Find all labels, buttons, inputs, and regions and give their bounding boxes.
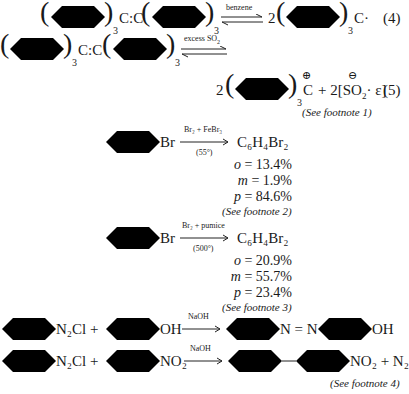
arrow-label-bottom: (500°) xyxy=(193,245,214,253)
substituent: Br xyxy=(160,135,175,150)
reaction-arrow-icon xyxy=(182,325,222,333)
footnote-reference: (See footnote 3) xyxy=(222,302,292,313)
benzene-ring-icon xyxy=(228,350,282,372)
nitro-group: NO₂ xyxy=(160,354,187,369)
biphenyl-bond xyxy=(282,360,296,364)
benzene-ring-icon xyxy=(296,350,350,372)
paren-open: ( xyxy=(102,30,111,58)
benzene-ring-icon xyxy=(10,38,64,60)
coefficient: 2 xyxy=(268,11,276,26)
isomer-yields: o = 20.9% m = 55.7% p = 23.4% xyxy=(228,253,292,301)
footnote-reference: (See footnote 4) xyxy=(330,378,400,389)
product-formula: C₆H₄Br₂ xyxy=(237,135,289,150)
arrow-label: excess SO2 xyxy=(184,35,220,45)
arrow-label-bottom: (55°) xyxy=(196,149,213,157)
paren-close: ) xyxy=(166,30,175,58)
positive-charge-icon: ⊕ xyxy=(302,69,311,82)
hydroxyl-group: OH xyxy=(372,322,394,337)
benzene-ring-icon xyxy=(106,131,160,153)
product-substituents: NO₂ + N₂ xyxy=(350,354,409,369)
arrow-label: NaOH xyxy=(190,345,211,353)
equation-number: (4) xyxy=(383,11,401,26)
diazonium-group: N₂Cl + xyxy=(56,322,98,337)
equilibrium-arrow-icon xyxy=(180,46,228,58)
product-formula: C₆H₄Br₂ xyxy=(237,231,289,246)
central-bond: C:C xyxy=(78,43,102,58)
arrow-label-top: Br₂ + FeBr₃ xyxy=(184,126,222,134)
benzene-ring-icon xyxy=(226,318,280,340)
benzene-ring-icon xyxy=(106,318,160,340)
benzene-ring-icon xyxy=(51,6,105,28)
paren-open: ( xyxy=(276,0,285,26)
benzene-ring-icon xyxy=(235,78,289,100)
diazonium-group: N₂Cl + xyxy=(56,354,98,369)
trityl-radical: C· xyxy=(354,11,369,26)
benzene-ring-icon xyxy=(152,6,206,28)
paren-close: ) xyxy=(205,0,214,26)
paren-close: ) xyxy=(339,0,348,26)
subscript: 3 xyxy=(348,25,353,36)
paren-close: ) xyxy=(104,0,113,26)
benzene-ring-icon xyxy=(113,38,167,60)
benzene-ring-icon xyxy=(318,318,372,340)
equilibrium-arrow-icon xyxy=(220,14,264,26)
reaction-arrow-icon xyxy=(180,138,230,146)
subscript: 3 xyxy=(113,25,118,36)
isomer-yields: o = 13.4% m = 1.9% p = 84.6% xyxy=(228,157,292,205)
yield-row: m = 1.9% xyxy=(228,173,292,189)
subscript: 3 xyxy=(72,57,77,68)
arrow-label: NaOH xyxy=(188,313,209,321)
azo-linkage: N = N xyxy=(280,322,318,337)
reaction-arrow-icon xyxy=(184,357,224,365)
substituent: Br xyxy=(160,231,175,246)
negative-charge-icon: ⊖ xyxy=(348,69,357,82)
yield-row: m = 55.7% xyxy=(228,269,292,285)
so2-complex: + 2[SO2· ε] xyxy=(318,83,386,101)
arrow-label-top: Br₂ + pumice xyxy=(182,222,225,230)
paren-open: ( xyxy=(0,30,9,58)
footnote-reference: (See footnote 1) xyxy=(302,107,372,118)
hydroxyl-group: OH xyxy=(160,322,182,337)
equation-number: (5) xyxy=(383,83,401,98)
benzene-ring-icon xyxy=(106,350,160,372)
footnote-reference: (See footnote 2) xyxy=(222,206,292,217)
paren-open: ( xyxy=(225,70,234,98)
benzene-ring-icon xyxy=(2,350,56,372)
paren-open: ( xyxy=(40,0,49,26)
yield-row: p = 84.6% xyxy=(228,189,292,205)
benzene-ring-icon xyxy=(2,318,56,340)
paren-close: ) xyxy=(288,70,297,98)
benzene-ring-icon xyxy=(106,227,160,249)
yield-row: o = 13.4% xyxy=(228,157,292,173)
subscript: 3 xyxy=(175,57,180,68)
paren-open: ( xyxy=(141,0,150,26)
paren-close: ) xyxy=(63,30,72,58)
reaction-arrow-icon xyxy=(180,234,230,242)
benzene-ring-icon xyxy=(286,6,340,28)
yield-row: o = 20.9% xyxy=(228,253,292,269)
coefficient: 2 xyxy=(216,83,224,98)
arrow-label: benzene xyxy=(226,4,252,12)
carbocation: C xyxy=(303,83,313,98)
central-bond: C:C xyxy=(119,11,143,26)
yield-row: p = 23.4% xyxy=(228,285,292,301)
